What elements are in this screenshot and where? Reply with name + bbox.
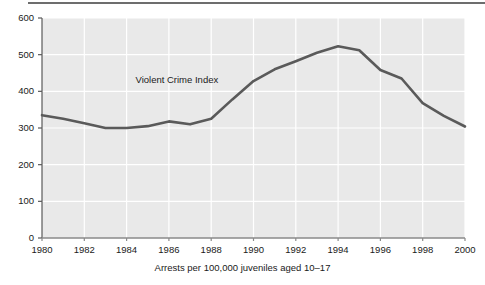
series-annotation-label: Violent Crime Index (135, 74, 218, 85)
x-tick-label: 2000 (445, 245, 485, 255)
x-tick-label: 1990 (234, 245, 274, 255)
x-tick-label: 1982 (64, 245, 104, 255)
y-tick-label: 0 (0, 233, 34, 243)
x-tick-label: 1992 (276, 245, 316, 255)
x-tick-label: 1984 (107, 245, 147, 255)
chart-figure: 0100200300400500600 19801982198419861988… (0, 0, 485, 285)
y-tick-label: 400 (0, 86, 34, 96)
line-chart-svg (0, 0, 485, 285)
x-tick-label: 1996 (360, 245, 400, 255)
x-tick-label: 1994 (318, 245, 358, 255)
y-tick-label: 600 (0, 13, 34, 23)
chart-caption: Arrests per 100,000 juveniles aged 10–17 (0, 262, 485, 273)
x-tick-label: 1980 (22, 245, 62, 255)
plot-area-wrapper: 0100200300400500600 19801982198419861988… (0, 0, 485, 285)
y-tick-label: 500 (0, 50, 34, 60)
y-tick-label: 100 (0, 196, 34, 206)
y-tick-label: 300 (0, 123, 34, 133)
x-tick-label: 1988 (191, 245, 231, 255)
y-tick-label: 200 (0, 160, 34, 170)
x-tick-label: 1998 (403, 245, 443, 255)
x-tick-label: 1986 (149, 245, 189, 255)
